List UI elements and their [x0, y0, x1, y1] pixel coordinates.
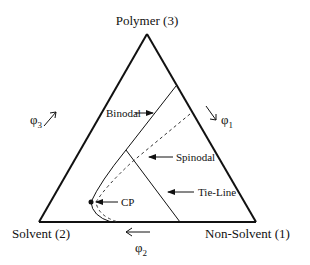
ternary-diagram: Polymer (3) Solvent (2) Non-Solvent (1) …	[0, 0, 310, 265]
phi1-label: φ1	[221, 112, 233, 130]
vertex-label-solvent: Solvent (2)	[12, 226, 70, 241]
tie-line	[126, 150, 180, 222]
spinodal-label: Spinodal	[176, 151, 215, 163]
tie-line-label: Tie-Line	[198, 186, 236, 198]
phi2-label: φ2	[135, 240, 147, 258]
phi1-arrow-icon	[206, 106, 216, 120]
spinodal-curve	[96, 114, 190, 222]
binodal-label: Binodal	[106, 107, 141, 119]
vertex-label-non-solvent: Non-Solvent (1)	[205, 226, 290, 241]
vertex-label-polymer: Polymer (3)	[116, 13, 178, 28]
cp-label: CP	[121, 196, 134, 208]
phi3-arrow-icon	[44, 112, 56, 126]
phi3-label: φ3	[30, 112, 43, 130]
critical-point-dot	[89, 200, 94, 205]
